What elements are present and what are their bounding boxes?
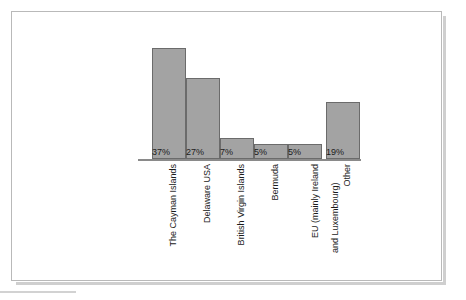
- x-tick-label-delaware-usa: Delaware USA: [202, 164, 212, 223]
- bar-value-other: 19%: [326, 147, 344, 157]
- bar-value-delaware-usa: 27%: [186, 147, 204, 157]
- x-tick-label-cayman-islands: The Cayman Islands: [168, 164, 178, 247]
- page-rule: [0, 291, 76, 293]
- bar-cayman-islands[interactable]: [152, 48, 186, 159]
- bar-value-cayman-islands: 37%: [152, 147, 170, 157]
- card-shadow-bottom: [16, 282, 446, 285]
- figure-card: 37% 27% 7% 5% 5% 19% The Cayman Islands …: [11, 11, 442, 281]
- x-axis-baseline: [138, 159, 361, 161]
- bar-value-british-virgin-islands: 7%: [220, 147, 233, 157]
- x-tick-label-eu-line1: EU (mainly Ireland: [310, 164, 320, 238]
- x-tick-label-bermuda: Bermuda: [270, 164, 280, 201]
- x-tick-label-british-virgin-islands: British Virgin Islands: [236, 164, 246, 245]
- bar-value-eu: 5%: [288, 147, 301, 157]
- x-tick-label-other: Other: [342, 164, 352, 187]
- card-shadow-right: [443, 16, 446, 284]
- bar-value-bermuda: 5%: [254, 147, 267, 157]
- bar-chart-plot-area: 37% 27% 7% 5% 5% 19% The Cayman Islands …: [12, 12, 443, 282]
- x-tick-label-eu-line2: and Luxembourg): [330, 164, 340, 253]
